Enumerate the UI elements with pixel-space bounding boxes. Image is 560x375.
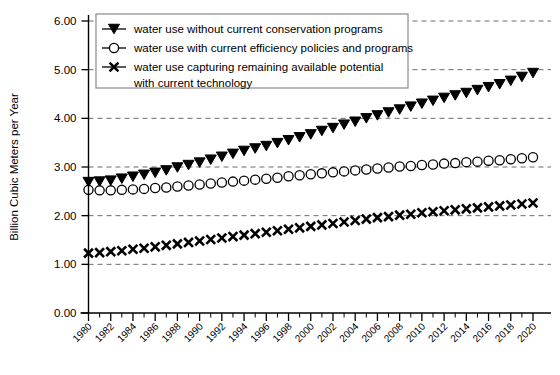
series-marker-without-conservation: [350, 117, 361, 127]
series-marker-current-efficiency: [473, 157, 482, 166]
x-tick-label: 2002: [315, 320, 339, 344]
legend-label: water use without current conservation p…: [133, 23, 383, 35]
series-marker-current-efficiency: [395, 162, 404, 171]
x-tick-label: 1986: [137, 320, 161, 344]
y-tick-label: 2.00: [54, 210, 76, 222]
series-marker-without-conservation: [150, 168, 161, 178]
series-marker-without-conservation: [127, 172, 138, 182]
series-marker-current-efficiency: [262, 174, 271, 183]
series-marker-without-conservation: [505, 76, 516, 86]
y-tick-label: 3.00: [54, 161, 76, 173]
x-tick-label: 2014: [448, 320, 472, 344]
series-marker-without-conservation: [216, 152, 227, 162]
legend-label: water use with current efficiency polici…: [133, 42, 413, 54]
x-tick-label: 1996: [248, 320, 272, 344]
series-circle-open: [84, 153, 538, 195]
series-marker-current-efficiency: [306, 170, 315, 179]
series-marker-without-conservation: [250, 144, 261, 154]
series-marker-without-conservation: [494, 80, 505, 90]
legend-marker-circle-open: [109, 43, 118, 52]
series-marker-current-efficiency: [328, 168, 337, 177]
series-marker-current-efficiency: [440, 159, 449, 168]
x-tick-label: 1992: [204, 320, 228, 344]
x-tick-label: 1988: [159, 320, 183, 344]
series-marker-current-efficiency: [506, 155, 515, 164]
series-marker-current-efficiency: [362, 165, 371, 174]
legend-label: water use capturing remaining available …: [133, 61, 383, 73]
series-marker-without-conservation: [116, 174, 127, 184]
series-marker-without-conservation: [139, 170, 150, 180]
series-marker-current-efficiency: [251, 175, 260, 184]
series-marker-without-conservation: [261, 141, 272, 151]
x-tick-label: 1982: [93, 320, 117, 344]
y-axis-title: Billion Cubic Meters per Year: [8, 93, 20, 241]
series-marker-current-efficiency: [173, 182, 182, 191]
data-series-layer: [83, 68, 539, 257]
series-marker-current-efficiency: [517, 154, 526, 163]
series-marker-current-efficiency: [184, 181, 193, 190]
x-tick-label: 2008: [382, 320, 406, 344]
series-marker-without-conservation: [205, 155, 216, 165]
x-tick-label: 2012: [426, 320, 450, 344]
x-axis-tick-labels: 1980198219841986198819901992199419961998…: [70, 320, 538, 344]
series-marker-current-efficiency: [528, 153, 537, 162]
series-marker-without-conservation: [472, 85, 483, 95]
series-marker-without-conservation: [105, 176, 116, 186]
series-marker-without-conservation: [316, 126, 327, 136]
x-tick-label: 1994: [226, 320, 250, 344]
series-marker-current-efficiency: [162, 183, 171, 192]
series-marker-without-conservation: [483, 82, 494, 92]
series-marker-without-conservation: [427, 96, 438, 106]
series-marker-current-efficiency: [273, 173, 282, 182]
water-use-line-chart: 0.001.002.003.004.005.006.00 19801982198…: [0, 0, 560, 375]
series-marker-without-conservation: [327, 123, 338, 133]
series-marker-current-efficiency: [228, 177, 237, 186]
series-marker-current-efficiency: [128, 185, 137, 194]
series-marker-current-efficiency: [495, 156, 504, 165]
x-tick-label: 2000: [293, 320, 317, 344]
series-marker-without-conservation: [194, 158, 205, 168]
series-marker-current-efficiency: [351, 166, 360, 175]
y-tick-label: 1.00: [54, 258, 76, 270]
x-tick-label: 2010: [404, 320, 428, 344]
series-marker-current-efficiency: [339, 167, 348, 176]
series-marker-without-conservation: [416, 99, 427, 109]
series-marker-current-efficiency: [195, 180, 204, 189]
series-marker-current-efficiency: [451, 159, 460, 168]
y-tick-label: 0.00: [54, 307, 76, 319]
series-marker-without-conservation: [394, 105, 405, 115]
series-marker-current-efficiency: [484, 156, 493, 165]
y-tick-label: 6.00: [54, 15, 76, 27]
series-marker-current-efficiency: [417, 160, 426, 169]
series-marker-current-efficiency: [384, 163, 393, 172]
series-marker-without-conservation: [294, 133, 305, 143]
x-tick-label: 1980: [70, 320, 94, 344]
series-x-filled: [84, 199, 537, 258]
series-marker-without-conservation: [94, 177, 105, 187]
series-marker-current-efficiency: [428, 160, 437, 169]
series-marker-without-conservation: [383, 108, 394, 118]
series-marker-without-conservation: [516, 72, 527, 82]
series-marker-current-efficiency: [151, 183, 160, 192]
y-tick-label: 4.00: [54, 112, 76, 124]
x-tick-label: 1998: [270, 320, 294, 344]
series-marker-without-conservation: [161, 166, 172, 176]
series-marker-without-conservation: [183, 160, 194, 170]
series-marker-current-efficiency: [406, 161, 415, 170]
chart-figure: 0.001.002.003.004.005.006.00 19801982198…: [0, 0, 560, 375]
series-marker-without-conservation: [439, 93, 450, 103]
x-tick-label: 2004: [337, 320, 361, 344]
y-axis-tick-labels: 0.001.002.003.004.005.006.00: [54, 15, 76, 319]
x-tick-label: 2006: [359, 320, 383, 344]
series-marker-without-conservation: [227, 149, 238, 159]
x-tick-label: 2018: [493, 320, 517, 344]
series-marker-without-conservation: [405, 102, 416, 112]
series-marker-current-efficiency: [95, 186, 104, 195]
series-marker-current-efficiency: [239, 176, 248, 185]
series-marker-current-efficiency: [284, 172, 293, 181]
legend-label: with current technology: [133, 77, 253, 89]
series-marker-current-efficiency: [217, 178, 226, 187]
x-tick-label: 2016: [470, 320, 494, 344]
series-marker-current-efficiency: [373, 164, 382, 173]
series-marker-current-efficiency: [462, 158, 471, 167]
